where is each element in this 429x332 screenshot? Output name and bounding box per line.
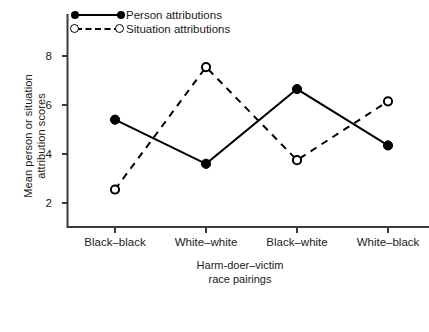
data-series-group bbox=[110, 63, 392, 194]
data-point-person-2 bbox=[292, 84, 301, 93]
data-point-situation-2 bbox=[293, 156, 301, 164]
plot-area bbox=[0, 0, 429, 332]
series-line-person bbox=[115, 89, 388, 164]
data-point-situation-0 bbox=[111, 185, 119, 193]
data-point-situation-3 bbox=[384, 97, 392, 105]
axis-lines bbox=[67, 14, 429, 228]
series-line-situation bbox=[115, 67, 388, 189]
data-point-situation-1 bbox=[202, 63, 210, 71]
data-point-person-0 bbox=[110, 115, 119, 124]
chart-figure: Mean person or situation attribution sco… bbox=[0, 0, 429, 332]
data-point-person-1 bbox=[201, 159, 210, 168]
data-point-person-3 bbox=[383, 141, 392, 150]
